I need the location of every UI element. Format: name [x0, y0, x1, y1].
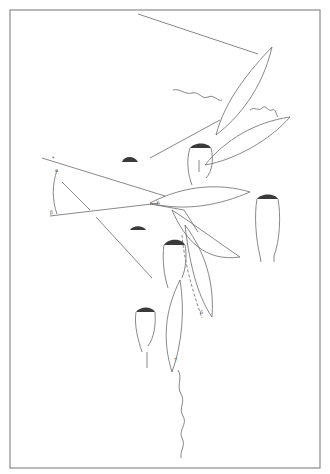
- wavy-line-bottom: [178, 370, 184, 458]
- wavy-line-right: [250, 107, 278, 117]
- figure-hanging-2: [256, 195, 280, 263]
- leaf-horizontal: [150, 187, 250, 207]
- figure-hanging-4: [135, 308, 155, 369]
- label-6: 6: [200, 309, 203, 315]
- angle-arc: [53, 170, 57, 214]
- label-7: 7: [174, 357, 177, 363]
- leaf-top: [216, 47, 272, 135]
- leaf-diagonal-long: [172, 210, 240, 258]
- diagonal-line-long: [96, 217, 152, 278]
- diagonal-line-left: [62, 182, 90, 210]
- label-star: *: [52, 155, 55, 161]
- figure-cap-small-1: [122, 157, 138, 162]
- angle-line-top: [42, 158, 165, 196]
- label-beta: β: [50, 209, 53, 216]
- line-drawing-canvas: * α β γ 6 7: [0, 0, 330, 474]
- angle-line-ext2: [184, 210, 198, 232]
- wavy-line-upper: [173, 90, 222, 101]
- top-diagonal-line: [138, 14, 258, 54]
- leaf-right-upper: [205, 117, 290, 165]
- label-alpha: α: [55, 167, 59, 173]
- angle-line-bottom: [50, 203, 160, 216]
- figure-cap-small-2: [130, 226, 146, 230]
- figure-hanging-3: [163, 240, 186, 288]
- figure-frame: [10, 10, 320, 468]
- leaf-lower-right: [185, 225, 212, 317]
- diagonal-line-mid: [150, 120, 220, 158]
